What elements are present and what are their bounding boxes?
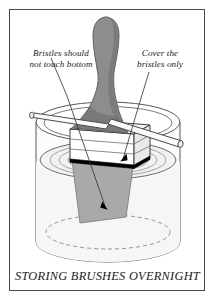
brush-bristles-icon [72,160,134,223]
figure-caption: STORING BRUSHES OVERNIGHT [0,269,215,284]
annotation-cover-bristles: Cover the bristles only [124,48,196,70]
figure-page: Bristles should not touch bottom Cover t… [0,0,215,301]
annotation-bristles-bottom: Bristles should not touch bottom [18,48,104,70]
